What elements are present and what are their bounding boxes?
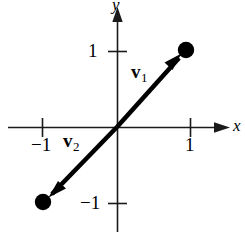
vector-v2-label: v2 [63,131,80,153]
vector-v2-subscript: 2 [73,139,80,154]
vector-diagram-figure: y x 1 −1 −1 1 v1 v2 [0,0,245,232]
vector-v1-endpoint-dot [178,42,194,58]
y-tick-label-minus-1: −1 [80,193,100,212]
vector-v1-name: v [131,61,141,82]
vector-v1-shaft [117,58,179,127]
vector-v1-arrowhead [165,54,182,71]
x-tick-label-1: 1 [185,135,195,154]
x-axis-label: x [233,117,241,134]
vector-v2-name: v [63,130,73,151]
vector-v2-endpoint-dot [35,194,51,210]
y-axis-label: y [112,0,120,13]
vector-v1-subscript: 1 [141,70,148,85]
x-axis-arrowhead [214,122,230,133]
x-tick-label-minus-1: −1 [31,135,51,154]
vector-v1-label: v1 [131,62,148,84]
y-tick-label-1: 1 [88,41,98,60]
diagram-canvas [0,0,245,232]
vector-v2-shaft [52,127,117,194]
